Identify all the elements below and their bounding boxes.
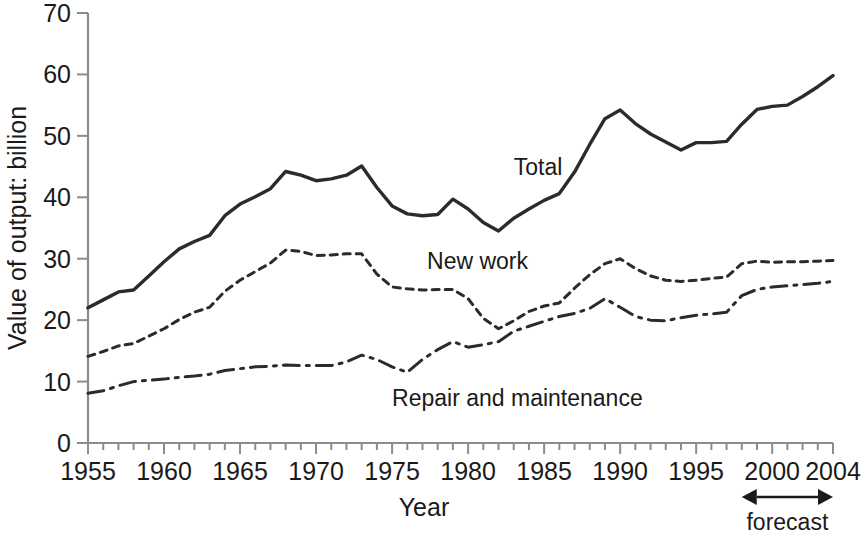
x-axis-tick-marks <box>88 443 833 454</box>
y-tick-label: 70 <box>43 0 71 27</box>
x-tick-label: 1995 <box>668 457 724 485</box>
x-tick-label: 2000 <box>744 457 800 485</box>
y-tick-label: 30 <box>43 245 71 273</box>
series-line-repair-and-maintenance <box>88 281 833 393</box>
axis-lines <box>88 13 833 443</box>
forecast-annotation: forecast <box>742 489 833 535</box>
series-inline-labels: TotalNew workRepair and maintenance <box>392 154 643 410</box>
y-tick-label: 40 <box>43 183 71 211</box>
x-tick-label: 1990 <box>592 457 648 485</box>
line-chart: 010203040506070 195519601965197019751980… <box>0 0 863 536</box>
series-lines <box>88 76 833 394</box>
forecast-arrow-head-right <box>818 489 833 505</box>
series-label-total: Total <box>514 154 563 180</box>
x-axis-title: Year <box>399 493 450 521</box>
series-label-repair-and-maintenance: Repair and maintenance <box>392 385 643 411</box>
y-axis-tick-labels: 010203040506070 <box>43 0 71 457</box>
x-tick-label: 1965 <box>212 457 268 485</box>
y-tick-label: 20 <box>43 306 71 334</box>
y-tick-label: 0 <box>57 429 71 457</box>
x-tick-label: 1980 <box>440 457 496 485</box>
x-tick-label: 1955 <box>60 457 116 485</box>
x-tick-label: 1975 <box>364 457 420 485</box>
forecast-label: forecast <box>746 509 828 535</box>
x-tick-label: 1960 <box>136 457 192 485</box>
chart-container: 010203040506070 195519601965197019751980… <box>0 0 863 536</box>
forecast-arrow-head-left <box>742 489 757 505</box>
x-tick-label: 2004 <box>805 457 861 485</box>
x-tick-label: 1970 <box>288 457 344 485</box>
y-tick-label: 50 <box>43 122 71 150</box>
y-axis-tick-marks <box>77 13 88 443</box>
y-axis-title: Value of output: billion <box>3 106 31 350</box>
x-axis-tick-labels: 1955196019651970197519801985199019952000… <box>60 457 861 485</box>
x-tick-label: 1985 <box>516 457 572 485</box>
y-tick-label: 10 <box>43 368 71 396</box>
y-tick-label: 60 <box>43 60 71 88</box>
series-label-new-work: New work <box>427 248 528 274</box>
